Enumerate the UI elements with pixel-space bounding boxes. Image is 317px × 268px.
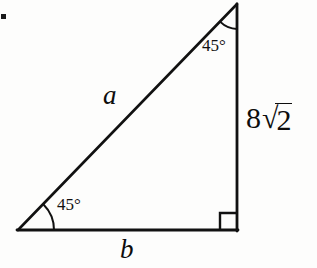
angle-arc-bottom-left (44, 205, 55, 231)
geometry-figure: a b 45° 45° 8 √2 (0, 0, 317, 268)
angle-arc-apex (220, 22, 237, 29)
radicand-value: 2 (275, 103, 292, 135)
angle-label-top: 45° (202, 37, 226, 54)
vertical-leg-length-label: 8 √2 (246, 103, 292, 135)
base-label: b (120, 236, 134, 263)
right-angle-marker (220, 213, 237, 230)
scan-artifact-mark (1, 14, 6, 19)
hypotenuse-label: a (103, 82, 117, 109)
radical-group: √2 (262, 103, 292, 135)
vertical-leg-coefficient: 8 (246, 103, 261, 133)
angle-label-bottom-left: 45° (57, 196, 81, 213)
